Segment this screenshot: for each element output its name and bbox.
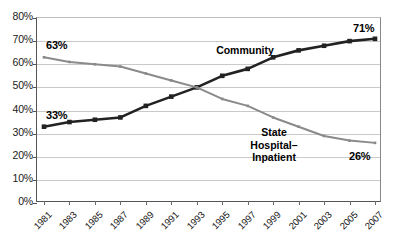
data-point-marker <box>67 120 72 125</box>
x-tick-label: 1985 <box>77 209 105 237</box>
x-tick-label: 1981 <box>26 209 54 237</box>
y-tick-label: 50% <box>0 79 33 91</box>
data-point-marker <box>374 142 377 145</box>
data-point-marker <box>246 105 249 108</box>
data-point-marker <box>68 61 71 64</box>
state-hospital-label-line-3: Inpatient <box>233 151 315 164</box>
x-tick-label: 1993 <box>179 209 207 237</box>
data-point-marker <box>43 56 46 59</box>
x-tick-label: 1987 <box>103 209 131 237</box>
state-hospital-label-line-2: Hospital– <box>233 139 315 152</box>
y-tick-label: 80% <box>0 10 33 22</box>
data-point-marker <box>94 63 97 66</box>
x-tick-label: 1983 <box>52 209 80 237</box>
data-point-marker <box>195 86 198 89</box>
data-point-marker <box>42 124 47 129</box>
x-tick-label: 2005 <box>332 209 360 237</box>
y-tick-label: 40% <box>0 103 33 115</box>
chart-figure: 80%70%60%50%40%30%20%10%0% 63% 33% 71% 2… <box>0 0 402 243</box>
state-hospital-start-value-label: 63% <box>46 39 67 51</box>
community-end-value-label: 71% <box>353 22 374 34</box>
data-point-marker <box>170 79 173 82</box>
x-tick-label: 2003 <box>306 209 334 237</box>
x-tick-label: 1997 <box>230 209 258 237</box>
data-point-marker <box>145 72 148 75</box>
x-tick-label: 1999 <box>255 209 283 237</box>
y-tick-label: 20% <box>0 149 33 161</box>
x-tick-label: 1995 <box>204 209 232 237</box>
data-point-marker <box>347 39 352 44</box>
y-tick-label: 70% <box>0 33 33 45</box>
community-start-value-label: 33% <box>46 109 67 121</box>
data-point-marker <box>93 117 98 122</box>
data-point-marker <box>296 48 301 53</box>
data-point-marker <box>322 43 327 48</box>
x-tick-label: 2007 <box>357 209 385 237</box>
series-line-state-hospital <box>44 57 375 143</box>
data-point-marker <box>373 37 378 42</box>
y-tick-mark <box>33 203 37 204</box>
x-tick-label: 2001 <box>281 209 309 237</box>
data-point-marker <box>245 67 250 72</box>
data-point-marker <box>169 94 174 99</box>
y-tick-label: 0% <box>0 195 33 207</box>
x-tick-label: 1991 <box>153 209 181 237</box>
data-point-marker <box>144 104 149 109</box>
state-hospital-end-value-label: 26% <box>349 150 370 162</box>
data-point-marker <box>118 115 123 120</box>
data-point-marker <box>272 116 275 119</box>
state-hospital-series-label: State Hospital– Inpatient <box>233 126 315 164</box>
state-hospital-label-line-1: State <box>233 126 315 139</box>
data-point-marker <box>221 98 224 101</box>
y-tick-label: 60% <box>0 56 33 68</box>
data-point-marker <box>119 65 122 68</box>
data-point-marker <box>323 135 326 138</box>
data-point-marker <box>220 74 225 79</box>
x-tick-label: 1989 <box>128 209 156 237</box>
plot-area: 63% 33% 71% 26% Community State Hospital… <box>36 17 381 202</box>
community-series-label: Community <box>205 44 285 57</box>
y-tick-label: 10% <box>0 172 33 184</box>
y-tick-label: 30% <box>0 126 33 138</box>
data-point-marker <box>348 139 351 142</box>
x-axis: 1981198319851987198919911993199519971999… <box>36 205 381 243</box>
